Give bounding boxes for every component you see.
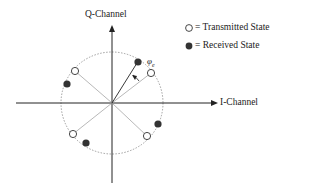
q-axis-label: Q-Channel bbox=[85, 10, 127, 20]
legend-received-label: = Received State bbox=[195, 41, 259, 51]
transmitted-state bbox=[69, 130, 76, 137]
phase-label: φe bbox=[147, 57, 155, 68]
spoke bbox=[75, 71, 112, 103]
received-state bbox=[63, 80, 70, 87]
legend-transmitted-icon bbox=[186, 25, 193, 32]
received-state bbox=[154, 120, 161, 127]
legend-received-icon bbox=[186, 43, 193, 50]
received-state bbox=[82, 139, 89, 146]
transmitted-state bbox=[147, 69, 154, 76]
i-axis-arrow-icon bbox=[211, 100, 218, 106]
spoke bbox=[112, 73, 151, 103]
q-axis-arrow-icon bbox=[109, 25, 115, 32]
spoke bbox=[73, 103, 112, 134]
phase-arrow-icon bbox=[132, 75, 137, 80]
legend-transmitted-label: = Transmitted State bbox=[195, 23, 270, 33]
transmitted-state bbox=[143, 132, 150, 139]
received-vector bbox=[112, 63, 137, 103]
spoke bbox=[112, 103, 147, 136]
i-axis-label: I-Channel bbox=[220, 98, 258, 108]
received-state bbox=[134, 58, 141, 65]
transmitted-state bbox=[71, 67, 78, 74]
phase-subscript: e bbox=[152, 62, 155, 68]
